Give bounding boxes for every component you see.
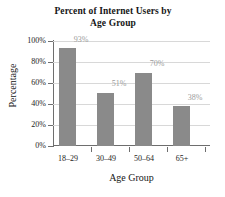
y-tick-label-60: 60% (0, 79, 46, 87)
bar-30-49[interactable] (97, 93, 114, 147)
gridline-80 (53, 62, 210, 63)
y-tick-label-40: 40% (0, 100, 46, 108)
x-tick-mark-4 (205, 147, 206, 152)
bar-value-label-65-plus: 38% (175, 94, 215, 102)
chart-title-line-1: Percent of Internet Users by (18, 6, 208, 18)
chart-title: Percent of Internet Users by Age Group (18, 6, 208, 29)
bar-18-29[interactable] (59, 48, 76, 146)
y-tick-label-0: 0% (0, 142, 46, 150)
chart-title-line-2: Age Group (18, 18, 208, 30)
x-tick-label-65-plus: 65+ (159, 154, 205, 163)
gridline-40 (53, 104, 210, 105)
x-axis-title: Age Group (53, 172, 210, 183)
bar-value-label-50-64: 70% (137, 60, 177, 68)
bar-65-plus[interactable] (173, 106, 190, 146)
bar-value-label-18-29: 93% (61, 36, 101, 44)
x-tick-mark-2 (129, 147, 130, 152)
x-tick-mark-1 (91, 147, 92, 152)
y-tick-label-20: 20% (0, 121, 46, 129)
y-tick-label-80: 80% (0, 58, 46, 66)
bar-value-label-30-49: 51% (99, 80, 139, 88)
y-tick-label-100: 100% (0, 37, 46, 45)
x-tick-mark-3 (167, 147, 168, 152)
